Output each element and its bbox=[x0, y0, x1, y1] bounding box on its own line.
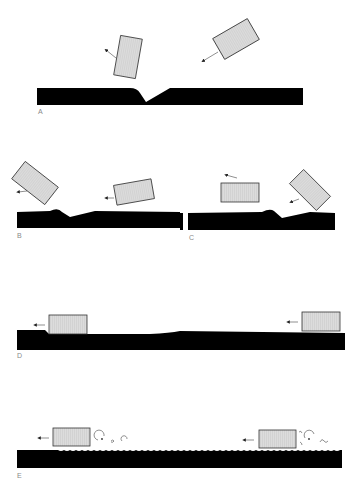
surface-b bbox=[17, 209, 180, 228]
vortex-icon bbox=[304, 430, 314, 438]
panel-a bbox=[37, 19, 303, 105]
arrow-c-flat bbox=[226, 175, 237, 178]
panel-label-e: E bbox=[17, 472, 22, 479]
block-e-left bbox=[53, 428, 90, 446]
block-e-right bbox=[259, 430, 296, 448]
panel-label-d: D bbox=[17, 352, 22, 359]
vortex-icon bbox=[121, 436, 127, 441]
impact-sequence-diagram bbox=[0, 0, 360, 486]
vortex-icon bbox=[320, 440, 328, 443]
block-c-tilted bbox=[289, 169, 330, 210]
panel-e bbox=[17, 428, 342, 468]
block-a-rebounding bbox=[114, 35, 143, 78]
vortex-icon bbox=[299, 431, 302, 433]
surface-c-edge bbox=[180, 213, 183, 230]
block-c-flat bbox=[221, 183, 259, 202]
vortices-e-right bbox=[299, 430, 328, 445]
panel-label-b: B bbox=[17, 232, 22, 239]
panel-label-a: A bbox=[38, 108, 43, 115]
arrow-c-tilted bbox=[291, 199, 299, 202]
vortex-icon bbox=[111, 440, 114, 442]
vortices-e-left bbox=[94, 430, 127, 442]
surface-c bbox=[188, 210, 335, 230]
arrow-a-rebound bbox=[106, 50, 116, 58]
block-a-incoming bbox=[213, 19, 260, 60]
panel-b bbox=[12, 161, 180, 228]
block-d-left bbox=[49, 315, 87, 334]
arrow-a-incoming bbox=[203, 52, 218, 61]
surface-a bbox=[37, 88, 303, 105]
surface-e bbox=[17, 450, 342, 468]
panel-c bbox=[180, 169, 335, 230]
block-b-rebounding bbox=[12, 161, 59, 204]
panel-label-c: C bbox=[189, 234, 194, 241]
arrow-b-rebound bbox=[18, 191, 27, 192]
block-b-skimming bbox=[114, 179, 155, 205]
vortex-icon bbox=[300, 442, 302, 445]
panel-d bbox=[17, 312, 345, 350]
block-d-right bbox=[302, 312, 340, 331]
